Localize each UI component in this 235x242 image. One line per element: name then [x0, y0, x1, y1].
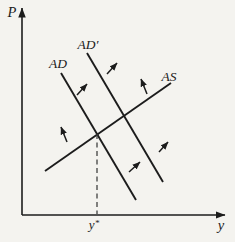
horizontal-axis-label: y: [216, 217, 225, 233]
adjustment-arrow-6: [159, 142, 168, 152]
as-curve: [45, 83, 171, 171]
ad-curve-label: AD: [48, 56, 67, 71]
vertical-axis-label: P: [7, 4, 17, 20]
adjustment-arrow-5: [129, 162, 140, 172]
ad-curve: [61, 73, 136, 200]
ad-prime-curve: [87, 53, 163, 182]
y-star-label: y*: [87, 217, 100, 232]
adjustment-arrow-1: [107, 63, 117, 74]
ad-as-phase-diagram: PyADAD′ASy*: [0, 0, 235, 242]
as-curve-label: AS: [161, 69, 177, 84]
ad-prime-curve-label: AD′: [77, 37, 100, 52]
adjustment-arrow-4: [61, 127, 67, 142]
adjustment-arrow-2: [77, 84, 87, 95]
scanned-figure-page: PyADAD′ASy*: [0, 0, 235, 242]
adjustment-arrow-3: [141, 79, 147, 94]
